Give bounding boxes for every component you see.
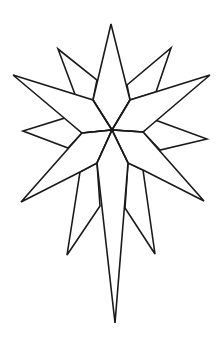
- star-icon: [0, 0, 220, 355]
- star-point-bottom-right-small: [125, 163, 155, 254]
- star-point-bottom: [97, 130, 128, 323]
